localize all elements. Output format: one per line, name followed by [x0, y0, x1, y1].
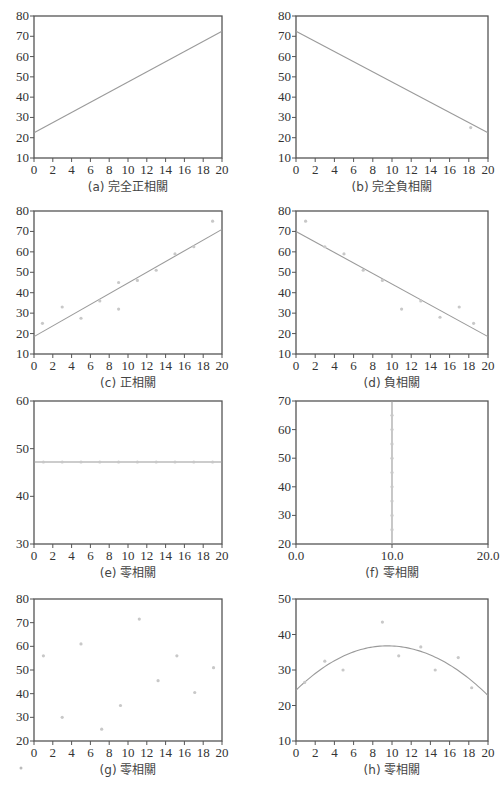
data-point	[136, 279, 139, 282]
data-point	[390, 500, 393, 503]
y-tick-label: 80	[16, 203, 29, 218]
chart-panel-h: 102030405002468101214161820(h) 零相關	[278, 591, 495, 777]
data-point	[119, 704, 122, 707]
x-tick-label: 16	[178, 548, 192, 563]
y-tick-label: 40	[16, 488, 29, 503]
x-tick-label: 2	[50, 745, 57, 760]
data-point	[390, 457, 393, 460]
x-tick-label: 16	[443, 162, 457, 177]
data-point	[41, 322, 44, 325]
y-tick-label: 70	[278, 223, 291, 238]
data-point	[136, 460, 139, 463]
data-point	[458, 305, 461, 308]
x-tick-label: 12	[405, 358, 418, 373]
y-tick-label: 40	[278, 89, 291, 104]
x-tick-label: 18	[197, 162, 210, 177]
x-tick-label: 18	[462, 162, 475, 177]
data-point	[397, 654, 400, 657]
plot-frame	[34, 16, 222, 158]
data-point	[419, 299, 422, 302]
y-tick-label: 50	[278, 264, 291, 279]
chart-panel-b: 102030405060708002468101214161820(b) 完全負…	[278, 8, 495, 194]
y-tick-label: 10	[278, 346, 291, 361]
x-tick-label: 12	[140, 162, 153, 177]
x-tick-label: 20	[482, 358, 495, 373]
data-point	[117, 281, 120, 284]
data-point	[390, 414, 393, 417]
x-tick-label: 8	[106, 358, 113, 373]
chart-panel-f: 2030405060700.010.020.0(f) 零相關	[278, 393, 499, 580]
x-tick-label: 0	[293, 745, 300, 760]
y-tick-label: 30	[16, 305, 29, 320]
chart-caption: (a) 完全正相關	[88, 179, 169, 194]
x-tick-label: 6	[87, 162, 94, 177]
x-tick-label: 4	[331, 358, 338, 373]
x-tick-label: 4	[68, 358, 75, 373]
x-tick-label: 8	[370, 358, 377, 373]
x-tick-label: 10	[122, 358, 135, 373]
y-tick-label: 40	[16, 686, 29, 701]
data-point	[193, 691, 196, 694]
data-point	[390, 514, 393, 517]
chart-caption: (f) 零相關	[365, 566, 418, 580]
fit-line	[296, 31, 488, 132]
x-tick-label: 0	[293, 162, 300, 177]
fit-line	[34, 31, 222, 132]
data-point	[381, 279, 384, 282]
x-tick-label: 12	[405, 162, 418, 177]
data-point	[472, 322, 475, 325]
y-tick-label: 40	[16, 285, 29, 300]
x-tick-label: 0	[31, 745, 38, 760]
chart-panel-g: 2030405060708002468101214161820(g) 零相關	[16, 591, 229, 777]
x-tick-label: 20	[216, 162, 229, 177]
y-tick-label: 50	[278, 591, 291, 606]
x-tick-label: 14	[159, 745, 173, 760]
chart-panel-c: 102030405060708002468101214161820(c) 正相關	[16, 203, 229, 390]
y-tick-label: 50	[16, 441, 29, 456]
y-tick-label: 20	[16, 326, 29, 341]
x-tick-label: 16	[178, 162, 192, 177]
data-point	[79, 460, 82, 463]
y-tick-label: 70	[16, 28, 29, 43]
data-point	[438, 316, 441, 319]
data-point	[469, 126, 472, 129]
data-point	[117, 307, 120, 310]
y-tick-label: 60	[16, 393, 29, 408]
x-tick-label: 0.0	[288, 548, 304, 563]
x-tick-label: 0	[31, 162, 38, 177]
x-tick-label: 12	[140, 548, 153, 563]
x-tick-label: 10.0	[381, 548, 404, 563]
chart-caption: (b) 完全負相關	[352, 179, 433, 194]
x-tick-label: 10	[386, 745, 399, 760]
x-tick-label: 20.0	[477, 548, 500, 563]
x-tick-label: 2	[50, 162, 57, 177]
x-tick-label: 10	[122, 745, 135, 760]
x-tick-label: 14	[159, 548, 173, 563]
y-tick-label: 60	[16, 49, 29, 64]
x-tick-label: 6	[350, 358, 357, 373]
x-tick-label: 0	[293, 358, 300, 373]
y-tick-label: 30	[16, 536, 29, 551]
x-tick-label: 16	[443, 358, 457, 373]
x-tick-label: 2	[50, 358, 57, 373]
y-tick-label: 60	[278, 244, 291, 259]
x-tick-label: 6	[87, 358, 94, 373]
x-tick-label: 4	[331, 162, 338, 177]
x-tick-label: 0	[31, 358, 38, 373]
x-tick-label: 2	[312, 358, 319, 373]
data-point	[100, 728, 103, 731]
data-point	[61, 460, 64, 463]
data-point	[381, 620, 384, 623]
x-tick-label: 18	[197, 548, 210, 563]
y-tick-label: 20	[16, 733, 29, 748]
x-tick-label: 4	[68, 548, 75, 563]
y-tick-label: 80	[16, 8, 29, 23]
data-point	[192, 245, 195, 248]
data-point	[341, 668, 344, 671]
y-tick-label: 80	[278, 8, 291, 23]
x-tick-label: 14	[424, 745, 438, 760]
x-tick-label: 10	[386, 162, 399, 177]
x-tick-label: 0	[31, 548, 38, 563]
x-tick-label: 20	[216, 745, 229, 760]
data-point	[156, 679, 159, 682]
